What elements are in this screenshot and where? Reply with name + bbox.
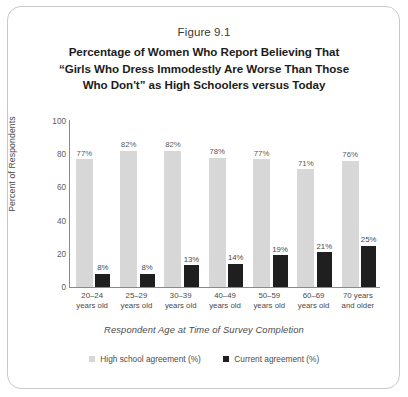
- y-axis-tick-20: 20: [40, 249, 66, 258]
- bar-value-label: 71%: [298, 159, 314, 168]
- bar-high-school: 76%: [342, 161, 359, 287]
- x-axis-category-label: 30–39years old: [159, 291, 203, 311]
- bar-group: 82%13%: [159, 121, 203, 287]
- plot-area: 77%8%82%8%82%13%78%14%77%19%71%21%76%25%: [70, 121, 380, 287]
- x-axis-category-label: 70 yearsand older: [336, 291, 380, 311]
- bar-value-label: 19%: [272, 245, 288, 254]
- bar-group: 71%21%: [291, 121, 335, 287]
- bar-value-label: 82%: [165, 140, 181, 149]
- legend-item-high-school: High school agreement (%): [89, 354, 201, 364]
- bar-current: 8%: [140, 274, 155, 287]
- x-axis-category-label: 25–29years old: [114, 291, 158, 311]
- bar-value-label: 77%: [77, 149, 93, 158]
- y-axis-tick-60: 60: [40, 183, 66, 192]
- bar-group: 77%8%: [70, 121, 114, 287]
- y-axis-tick-80: 80: [40, 150, 66, 159]
- bar-current: 14%: [228, 264, 243, 287]
- bar-current: 21%: [317, 252, 332, 287]
- x-axis-title: Respondent Age at Time of Survey Complet…: [30, 324, 378, 335]
- bar-group: 76%25%: [336, 121, 380, 287]
- bar-high-school: 82%: [120, 151, 137, 287]
- figure-title: Percentage of Women Who Report Believing…: [30, 44, 378, 94]
- bar-value-label: 82%: [121, 140, 137, 149]
- bar-value-label: 25%: [361, 235, 377, 244]
- legend-item-current: Current agreement (%): [223, 354, 319, 364]
- bar-value-label: 8%: [142, 263, 153, 272]
- bar-value-label: 14%: [228, 253, 244, 262]
- figure-title-line-2: “Girls Who Dress Immodestly Are Worse Th…: [30, 61, 378, 78]
- chart-legend: High school agreement (%) Current agreem…: [0, 354, 408, 364]
- bar-high-school: 71%: [297, 169, 314, 287]
- bar-high-school: 77%: [253, 159, 270, 287]
- figure-container: Figure 9.1 Percentage of Women Who Repor…: [0, 0, 408, 397]
- y-axis-title: Percent of Respondents: [7, 89, 17, 239]
- bar-group: 82%8%: [114, 121, 158, 287]
- legend-label-high-school: High school agreement (%): [100, 354, 201, 364]
- figure-number: Figure 9.1: [0, 26, 408, 38]
- y-axis-tick-100: 100: [40, 117, 66, 126]
- legend-swatch-icon-current: [223, 356, 230, 363]
- bar-high-school: 82%: [164, 151, 181, 287]
- y-axis-ticks: 100806040200: [38, 121, 66, 287]
- x-axis-category-label: 20–24years old: [70, 291, 114, 311]
- bar-group: 78%14%: [203, 121, 247, 287]
- y-axis-tick-0: 0: [40, 283, 66, 292]
- x-axis-category-label: 60–69years old: [291, 291, 335, 311]
- bar-group: 77%19%: [247, 121, 291, 287]
- legend-swatch-icon-high-school: [89, 356, 96, 363]
- bar-value-label: 78%: [209, 147, 225, 156]
- bar-current: 13%: [184, 265, 199, 287]
- bar-value-label: 77%: [254, 149, 270, 158]
- bar-value-label: 21%: [317, 242, 333, 251]
- y-axis-tick-40: 40: [40, 216, 66, 225]
- legend-label-current: Current agreement (%): [234, 354, 319, 364]
- bar-value-label: 76%: [342, 150, 358, 159]
- bar-current: 19%: [273, 255, 288, 287]
- bar-high-school: 78%: [209, 158, 226, 287]
- bar-current: 25%: [361, 246, 376, 288]
- bar-value-label: 8%: [97, 263, 108, 272]
- bar-value-label: 13%: [184, 255, 200, 264]
- x-axis-category-label: 50–59years old: [247, 291, 291, 311]
- figure-title-line-3: Who Don't” as High Schoolers versus Toda…: [30, 77, 378, 94]
- figure-title-line-1: Percentage of Women Who Report Believing…: [30, 44, 378, 61]
- bar-high-school: 77%: [76, 159, 93, 287]
- bar-current: 8%: [95, 274, 110, 287]
- x-axis-category-label: 40–49years old: [203, 291, 247, 311]
